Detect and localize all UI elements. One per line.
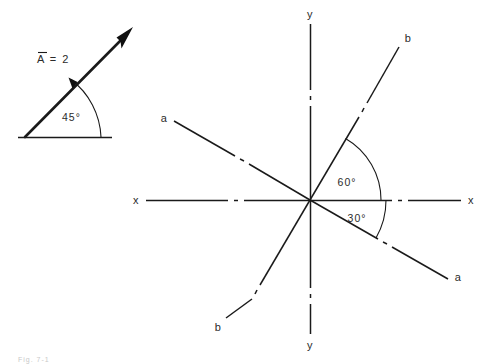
b-axis-label-negative: b [215, 321, 222, 333]
a-axis-negative-inner [249, 164, 310, 200]
y-axis-label-positive: y [307, 8, 313, 20]
vector-diagram: A = 2 45° [18, 27, 133, 138]
y-axis: y y [307, 8, 313, 351]
b-axis-negative-dot [255, 290, 257, 294]
a-axis-positive-dot [383, 242, 387, 244]
x-axis-label-negative: x [133, 194, 139, 206]
b-axis-negative-inner [260, 200, 310, 285]
a-axis-negative-outer [174, 121, 235, 156]
b-axis-positive-dot [362, 108, 364, 112]
angle-label-30: 30° [348, 212, 367, 224]
a-axis-positive-outer [392, 247, 448, 279]
b-axis: b b [215, 32, 412, 333]
a-axis-label-negative: a [161, 112, 168, 124]
figure-caption-fragment: Fig. 7-1 [18, 356, 50, 364]
x-axis-label-positive: x [468, 194, 474, 206]
b-axis-positive-outer [367, 47, 399, 103]
b-axis-negative-outer [226, 299, 252, 318]
angle-arc-30 [376, 200, 386, 238]
figure-canvas: A = 2 45° x x [0, 0, 490, 364]
angle-arc-60 [346, 139, 382, 201]
a-axis-negative-dot [240, 159, 244, 161]
vector-magnitude-label: A = 2 [37, 53, 70, 65]
angle-label-45: 45° [62, 111, 81, 123]
a-axis-label-positive: a [455, 271, 462, 283]
angle-label-60: 60° [338, 176, 357, 188]
y-axis-label-negative: y [307, 339, 313, 351]
vector-arrowhead [117, 27, 134, 49]
diagram-svg: A = 2 45° x x [0, 0, 490, 364]
axes-diagram: x x y y a [133, 8, 474, 351]
b-axis-label-positive: b [405, 32, 412, 44]
angle-arc-45 [71, 80, 101, 138]
a-axis-positive-inner [310, 200, 378, 239]
